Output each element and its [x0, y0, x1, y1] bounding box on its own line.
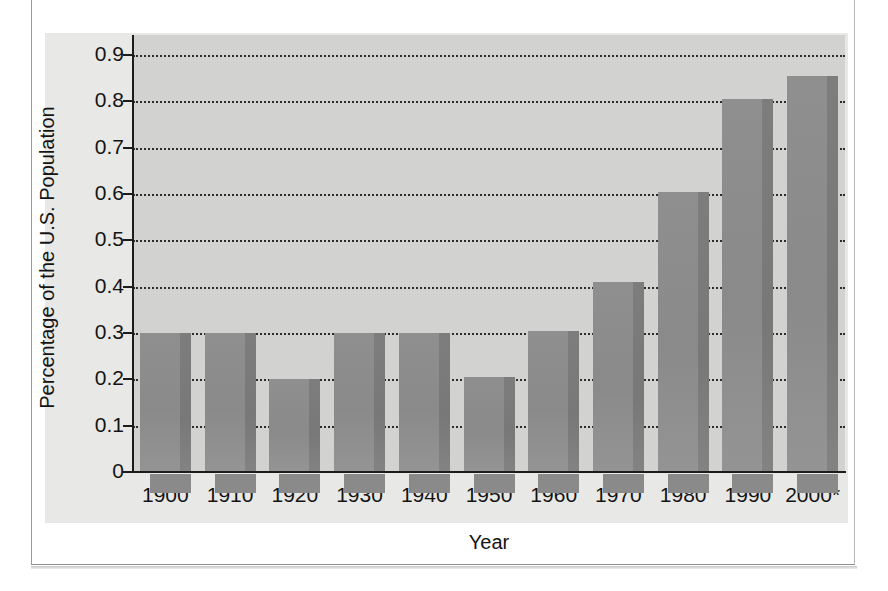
bar: [269, 35, 320, 472]
bar-front-face: [658, 192, 698, 472]
plot-area: [133, 35, 845, 472]
bar-front-face: [787, 76, 827, 472]
bar-base-shadow: [215, 474, 256, 493]
y-axis-title: Percentage of the U.S. Population: [36, 93, 59, 423]
bar-base-shadow: [603, 474, 644, 493]
y-axis-tick: [123, 425, 134, 427]
bar: [334, 35, 385, 472]
y-axis-tick-label: 0.6: [80, 181, 124, 205]
y-axis-tick: [123, 471, 134, 473]
y-axis-tick-label: 0.2: [80, 366, 124, 390]
y-axis-tick: [123, 193, 134, 195]
y-axis-tick-label: 0.3: [80, 320, 124, 344]
y-axis-tick-label: 0.5: [80, 227, 124, 251]
bar: [464, 35, 515, 472]
y-axis-tick: [123, 378, 134, 380]
bar-front-face: [593, 282, 633, 472]
bar-base-shadow: [538, 474, 579, 493]
y-axis-tick-label: 0.4: [80, 274, 124, 298]
y-axis-tick: [123, 54, 134, 56]
bar-front-face: [205, 333, 245, 472]
bar-side-face: [568, 331, 579, 472]
y-axis-tick-label: 0.9: [80, 42, 124, 66]
bar-side-face: [309, 379, 320, 472]
bar: [658, 35, 709, 472]
bar-side-face: [698, 192, 709, 472]
bar-chart: 0.90.80.70.60.50.40.30.20.10 Percentage …: [0, 0, 888, 591]
bar: [205, 35, 256, 472]
bar-side-face: [504, 377, 515, 472]
y-axis-tick-labels: 0.90.80.70.60.50.40.30.20.10: [48, 0, 124, 591]
bar-base-shadow: [797, 474, 838, 493]
y-axis-tick-label: 0.8: [80, 88, 124, 112]
bar: [399, 35, 450, 472]
x-axis-line: [132, 471, 846, 473]
y-axis-tick: [123, 286, 134, 288]
x-axis-title: Year: [133, 531, 845, 554]
bar-side-face: [245, 333, 256, 472]
y-axis-tick-label: 0.1: [80, 413, 124, 437]
y-axis-tick-label: 0: [80, 459, 124, 483]
bar-side-face: [439, 333, 450, 472]
bar: [140, 35, 191, 472]
bar-front-face: [269, 379, 309, 472]
bar-base-shadow: [668, 474, 709, 493]
bar-front-face: [464, 377, 504, 472]
y-axis-tick: [123, 147, 134, 149]
bar-base-shadow: [409, 474, 450, 493]
bar-side-face: [180, 333, 191, 472]
bar: [593, 35, 644, 472]
bar-base-shadow: [474, 474, 515, 493]
bar-front-face: [140, 333, 180, 472]
bar: [787, 35, 838, 472]
bar-base-shadow: [279, 474, 320, 493]
bar-side-face: [633, 282, 644, 472]
y-axis-tick: [123, 239, 134, 241]
bar-front-face: [399, 333, 439, 472]
y-axis-tick-label: 0.7: [80, 135, 124, 159]
bar-side-face: [827, 76, 838, 472]
bar: [528, 35, 579, 472]
bar-front-face: [334, 333, 374, 472]
bar-front-face: [722, 99, 762, 472]
y-axis-tick: [123, 100, 134, 102]
y-axis-tick: [123, 332, 134, 334]
bar-base-shadow: [344, 474, 385, 493]
bar-front-face: [528, 331, 568, 472]
bar-side-face: [762, 99, 773, 472]
bar-base-shadow: [150, 474, 191, 493]
bar: [722, 35, 773, 472]
bar-base-shadow: [732, 474, 773, 493]
bar-side-face: [374, 333, 385, 472]
